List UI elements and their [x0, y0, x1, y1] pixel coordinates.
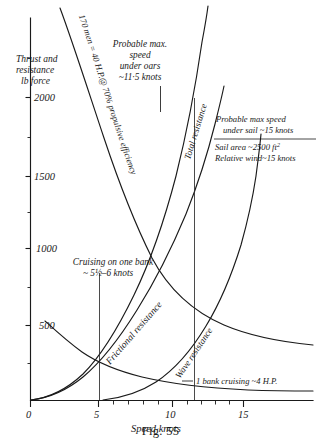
x-tick-label-0: 0	[26, 409, 32, 420]
annotation-oars-line1: Probable max.	[112, 39, 167, 49]
y-tick-label-1000: 1000	[36, 243, 58, 254]
y-axis-title-line3: lb force	[21, 76, 50, 86]
chart-canvas: 2000 1500 1000 500 Thrust and resistance…	[0, 0, 321, 448]
label-thrust-curve-text: 170 men = 40 H.P.@ 70% propulsive effici…	[77, 13, 139, 176]
annotation-sail: Probable max speed under sail ~15 knots …	[214, 114, 316, 163]
annotation-cruising-line1: Cruising on one bank	[73, 257, 154, 267]
annotation-sail-line2: under sail ~15 knots	[223, 125, 294, 135]
annotation-sail-line4: Relative wind~15 knots	[214, 153, 296, 163]
annotation-sail-line3: Sail area ~2500 ft2	[215, 142, 280, 152]
label-wave-resistance: Wave resistance	[173, 326, 214, 380]
label-wave-resistance-text: Wave resistance	[173, 326, 214, 380]
x-tick-label-15: 15	[238, 409, 249, 420]
annotation-one-bank-hp-text: 1 bank cruising ~4 H.P.	[196, 376, 277, 386]
y-tick-label-1500: 1500	[34, 171, 56, 182]
annotation-cruising-line2: ~ 5½–6 knots	[83, 268, 134, 278]
y-axis-title-line2: resistance	[16, 65, 54, 75]
x-tick-label-10: 10	[165, 409, 176, 420]
annotation-sail-line1: Probable max speed	[215, 114, 287, 124]
y-axis-title: Thrust and resistance lb force	[16, 54, 58, 86]
annotation-oars-line3: under oars	[120, 61, 161, 71]
label-frictional-resistance: Frictional resistance	[103, 298, 165, 367]
annotation-oars: Probable max. speed under oars ~11·5 kno…	[112, 39, 167, 112]
label-thrust-curve: 170 men = 40 H.P.@ 70% propulsive effici…	[77, 13, 168, 258]
label-frictional-resistance-text: Frictional resistance	[103, 298, 165, 367]
y-axis-title-line1: Thrust and	[16, 54, 58, 64]
annotation-one-bank-hp: 1 bank cruising ~4 H.P.	[182, 376, 277, 386]
annotation-oars-line2: speed	[129, 50, 151, 60]
x-tick-marks	[31, 401, 244, 408]
axis-group	[31, 18, 314, 401]
figure-caption: Fig. 55	[0, 424, 321, 439]
annotation-cruising-one-bank: Cruising on one bank ~ 5½–6 knots	[73, 257, 154, 278]
annotation-oars-line4: ~11·5 knots	[119, 72, 162, 82]
y-tick-marks	[26, 59, 31, 364]
x-tick-label-5: 5	[94, 409, 99, 420]
y-tick-label-500: 500	[39, 320, 56, 331]
figure-container: 2000 1500 1000 500 Thrust and resistance…	[0, 0, 321, 448]
y-tick-label-2000: 2000	[34, 92, 56, 103]
